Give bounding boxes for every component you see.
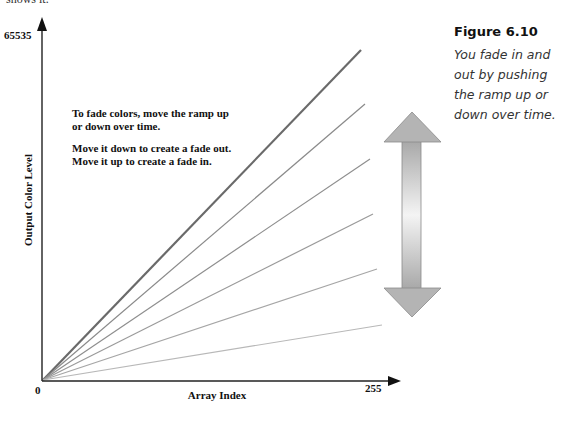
annotation-line: Move it up to create a fade in. (72, 155, 212, 167)
annotation-line: Move it down to create a fade out. (72, 142, 232, 154)
y-axis-label: Output Color Level (22, 154, 34, 246)
ramp-line-5 (43, 325, 382, 380)
x-max-tick: 255 (365, 382, 382, 394)
annotation-line: To fade colors, move the ramp up (72, 107, 229, 119)
origin-label: 0 (35, 384, 41, 396)
ramp-lines (43, 50, 382, 380)
y-axis-arrowhead-icon (37, 17, 47, 31)
figure-caption-text: You fade in and out by pushing the ramp … (454, 45, 571, 125)
x-axis-arrowhead-icon (388, 376, 401, 386)
annotation-line: or down over time. (72, 120, 160, 132)
ramp-line-4 (43, 269, 377, 380)
x-axis-label: Array Index (188, 389, 247, 401)
up-down-double-arrow-icon (384, 112, 441, 317)
figure-caption: Figure 6.10 You fade in and out by pushi… (454, 24, 571, 125)
figure-label: Figure 6.10 (454, 24, 571, 39)
ramp-line-0 (43, 50, 361, 380)
y-max-tick: 65535 (4, 29, 32, 41)
ramp-line-2 (43, 159, 370, 380)
